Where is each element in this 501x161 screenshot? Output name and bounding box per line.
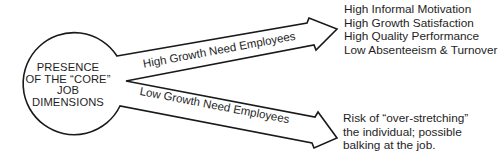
- outcome-item: High Quality Performance: [344, 30, 497, 44]
- outcome-item: Low Absenteeism & Turnover: [344, 44, 497, 58]
- node-line-3: JOB: [17, 85, 119, 97]
- outcome-item: the individual; possible: [343, 126, 468, 140]
- outcome-item: Risk of “over-stretching”: [343, 112, 468, 126]
- outcome-item: High Informal Motivation: [344, 3, 497, 17]
- core-dimensions-node: PRESENCE OF THE “CORE” JOB DIMENSIONS: [17, 62, 119, 108]
- high-growth-outcomes: High Informal Motivation High Growth Sat…: [344, 3, 497, 57]
- low-growth-outcomes: Risk of “over-stretching” the individual…: [343, 112, 468, 153]
- outcome-item: balking at the job.: [343, 139, 468, 153]
- outcome-item: High Growth Satisfaction: [344, 17, 497, 31]
- node-line-1: PRESENCE: [17, 62, 119, 74]
- node-line-4: DIMENSIONS: [17, 97, 119, 109]
